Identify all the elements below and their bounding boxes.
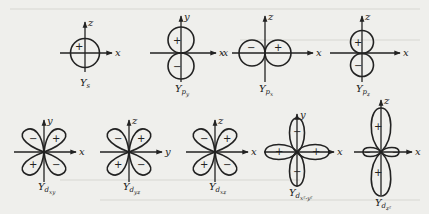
sign-minus: − <box>364 148 371 157</box>
sign-minus: − <box>293 126 301 137</box>
sign-plus: + <box>275 146 283 157</box>
sign-minus: − <box>354 60 362 71</box>
sign-plus: + <box>173 35 181 46</box>
axis-label-z: z <box>87 17 94 28</box>
sign-plus: + <box>374 121 382 132</box>
caption-dz2: Ydz² <box>375 197 391 211</box>
axis-label-x: x <box>251 146 257 157</box>
axis-label-y: y <box>164 146 171 157</box>
orbital-dxy <box>14 120 76 182</box>
sign-plus: + <box>29 159 37 170</box>
axis-label-z: z <box>383 95 390 106</box>
axis-label-z: z <box>131 115 138 126</box>
caption-s: Ys <box>80 77 91 90</box>
axis-label-z: z <box>267 11 274 22</box>
orbital-pz <box>330 16 400 82</box>
axis-label-y: y <box>299 109 306 120</box>
sign-plus: + <box>354 37 362 48</box>
sign-minus: − <box>247 42 255 53</box>
caption-pz: Ypz <box>356 83 370 97</box>
sign-plus: + <box>114 159 122 170</box>
axis-label-x: x <box>316 47 322 58</box>
axis-label-neg-x: -x <box>220 48 228 58</box>
sign-plus: + <box>274 42 282 53</box>
axis-label-z: z <box>217 115 224 126</box>
orbital-s <box>60 22 112 72</box>
sign-minus: − <box>137 159 145 170</box>
axis-label-x: x <box>79 146 85 157</box>
axis-label-y: y <box>183 11 190 22</box>
orbital-py <box>150 16 216 82</box>
orbital-dyz <box>100 120 162 182</box>
sign-minus: − <box>29 133 37 144</box>
sign-plus: + <box>374 167 382 178</box>
sign-minus: − <box>223 159 231 170</box>
sign-minus: − <box>52 159 60 170</box>
axis-label-y: y <box>46 115 53 126</box>
orbital-dxz <box>186 120 248 182</box>
orbital-angular-distribution-figure: x z x y -x x z x z x y y z x z x y x z +… <box>0 0 429 214</box>
caption-px: Ypx <box>259 83 274 97</box>
sign-minus: − <box>173 61 181 72</box>
sign-plus: + <box>137 133 145 144</box>
sign-plus: + <box>75 41 83 52</box>
caption-py: Ypy <box>175 83 190 98</box>
sign-minus: − <box>392 148 399 157</box>
sign-plus: + <box>200 159 208 170</box>
orbital-dz2 <box>354 100 412 196</box>
caption-dyz: Ydyz <box>123 181 140 196</box>
sign-minus: − <box>293 166 301 177</box>
axis-label-x: x <box>403 47 409 58</box>
axis-label-x: x <box>115 47 121 58</box>
sign-plus: + <box>312 146 320 157</box>
caption-dxz: Ydxz <box>209 181 226 195</box>
caption-dxy: Ydxy <box>38 181 56 196</box>
orbital-px <box>232 16 313 82</box>
axis-label-x: x <box>337 146 343 157</box>
sign-plus: + <box>223 133 231 144</box>
sign-plus: + <box>52 133 60 144</box>
sign-minus: − <box>114 133 122 144</box>
sign-minus: − <box>200 133 208 144</box>
axis-label-z: z <box>364 11 371 22</box>
axis-label-x: x <box>415 146 421 157</box>
